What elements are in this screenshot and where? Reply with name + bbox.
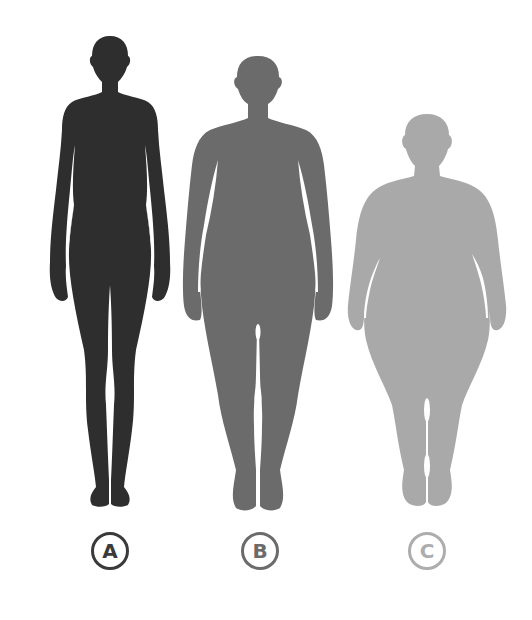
label-c-text: C (420, 539, 435, 563)
label-b: B (241, 532, 279, 570)
body-silhouettes-diagram (0, 0, 532, 620)
label-b-text: B (252, 539, 267, 563)
label-a: A (91, 532, 129, 570)
silhouette-b (183, 56, 333, 510)
silhouette-c (348, 114, 506, 506)
label-c: C (408, 532, 446, 570)
silhouette-a (50, 36, 171, 507)
label-a-text: A (102, 539, 117, 563)
